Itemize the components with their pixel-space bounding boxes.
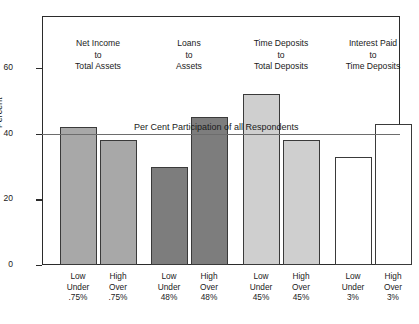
bar: [151, 167, 188, 266]
x-tick-label-6: HighOver45%: [275, 271, 327, 303]
x-tick-line: High: [183, 271, 235, 282]
bar: [335, 157, 372, 265]
y-tick-mark-0: [36, 265, 42, 266]
group-caption-4: Interest PaidtoTime Deposits: [313, 38, 419, 73]
x-tick-label-8: HighOver3%: [367, 271, 419, 303]
bar: [243, 94, 280, 265]
group-caption-line: Interest Paid: [313, 38, 419, 50]
x-tick-line: 48%: [183, 292, 235, 303]
x-tick-line: 45%: [275, 292, 327, 303]
x-tick-line: High: [92, 271, 144, 282]
reference-line: [42, 134, 400, 135]
y-tick-label-0: 0: [0, 260, 13, 269]
bar-chart: Percent 0204060 Per Cent Participation o…: [0, 0, 419, 324]
x-tick-line: .75%: [92, 292, 144, 303]
x-tick-line: Over: [183, 282, 235, 293]
x-tick-line: Over: [92, 282, 144, 293]
bar: [100, 140, 137, 265]
reference-line-label: Per Cent Participation of all Respondent…: [134, 122, 299, 132]
group-caption-line: to: [313, 50, 419, 62]
bar: [375, 124, 412, 265]
x-tick-line: Over: [275, 282, 327, 293]
y-tick-label-20: 20: [0, 194, 13, 203]
x-tick-line: Over: [367, 282, 419, 293]
x-tick-line: 3%: [367, 292, 419, 303]
x-tick-line: High: [367, 271, 419, 282]
bar: [191, 117, 228, 265]
y-tick-label-40: 40: [0, 129, 13, 138]
group-caption-line: Time Deposits: [313, 61, 419, 73]
bar: [283, 140, 320, 265]
x-tick-label-4: HighOver48%: [183, 271, 235, 303]
bar: [60, 127, 97, 265]
x-tick-line: High: [275, 271, 327, 282]
y-tick-label-60: 60: [0, 63, 13, 72]
y-axis-title: Percent: [0, 97, 4, 128]
x-tick-label-2: HighOver.75%: [92, 271, 144, 303]
